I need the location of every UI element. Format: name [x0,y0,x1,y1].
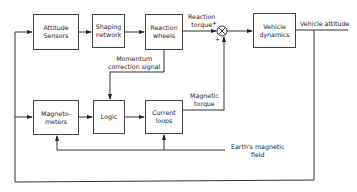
block-label: dynamics [259,31,289,39]
block-current-loops: Current loops [145,100,183,134]
block-label: network [96,31,122,39]
block-vehicle-dynamics: Vehicle dynamics [253,13,296,48]
label-earth-magnetic-field: Earth's magnetic field [231,143,284,159]
block-label: Attitude [43,24,68,32]
block-shaping-network: Shaping network [92,14,125,48]
label-line: torque [190,100,219,108]
block-label: Magneto- [41,110,71,118]
label-magnetic-torque: Magnetic torque [190,92,219,108]
block-label: meters [45,118,67,126]
label-momentum-correction: Momentum correction signal [108,55,160,71]
block-label: wheels [153,32,175,40]
plus-sign-top: + [212,19,217,27]
block-label: Vehicle [263,23,286,31]
label-line: Momentum [108,55,160,63]
block-label: Current [152,109,176,117]
label-line: correction signal [108,63,160,71]
block-label: loops [156,117,173,125]
label-line: Magnetic [190,92,219,100]
block-label: Shaping [96,23,122,31]
block-label: Sensors [44,32,69,40]
block-label: Logic [101,113,117,121]
block-logic: Logic [93,100,125,134]
label-line: field [231,151,284,159]
block-label: Reaction [150,24,177,32]
plus-sign-bottom: + [215,35,220,43]
block-reaction-wheels: Reaction wheels [145,14,183,50]
block-magnetometers: Magneto- meters [33,100,79,135]
block-attitude-sensors: Attitude Sensors [33,14,79,50]
label-line: Earth's magnetic [231,143,284,151]
label-vehicle-attitude: Vehicle attitude [300,20,349,28]
